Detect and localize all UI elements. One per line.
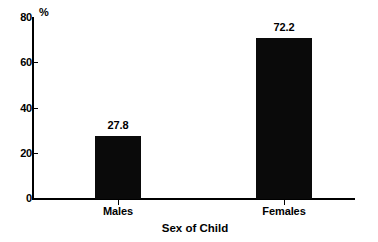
y-tick-label-80: 80 <box>6 12 32 23</box>
bar-females <box>256 38 312 199</box>
y-tick-mark-40 <box>34 108 38 109</box>
y-axis-unit-label: % <box>39 7 49 18</box>
bar-chart: % 80 60 40 20 0 27.8 72.2 Males Females … <box>0 0 378 242</box>
bar-males <box>95 136 141 199</box>
x-axis-title-text: Sex of Child <box>162 222 228 235</box>
y-tick-0: 0 <box>0 193 32 204</box>
x-category-label-males: Males <box>88 205 148 217</box>
y-tick-40: 40 <box>0 103 32 114</box>
y-tick-60: 60 <box>0 57 32 68</box>
bar-value-females: 72.2 <box>254 22 314 33</box>
y-tick-label-40: 40 <box>6 103 32 114</box>
y-tick-label-0: 0 <box>6 193 32 204</box>
y-tick-20: 20 <box>0 148 32 159</box>
bar-value-males: 27.8 <box>88 120 148 131</box>
y-tick-label-20: 20 <box>6 148 32 159</box>
y-tick-80: 80 <box>0 12 32 23</box>
y-tick-label-60: 60 <box>6 57 32 68</box>
x-category-label-females: Females <box>250 205 318 217</box>
x-axis-title: Sex of Child <box>0 222 378 235</box>
y-tick-mark-60 <box>34 62 38 63</box>
y-tick-mark-20 <box>34 153 38 154</box>
